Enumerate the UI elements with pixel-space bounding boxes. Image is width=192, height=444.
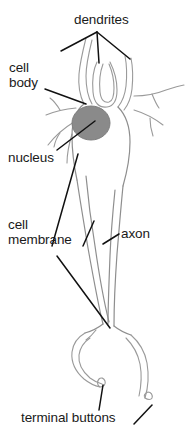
label-cell-body-line1: cell <box>9 60 29 75</box>
dendrite-upper-left-inner <box>86 40 92 104</box>
dendrite-left-branch-twig <box>50 98 60 110</box>
dendrite-branches <box>46 38 184 163</box>
dendrite-upper-right-outer <box>118 56 127 107</box>
axon-terminals <box>72 330 152 400</box>
dendrite-upper-left-outer <box>79 38 86 104</box>
label-terminal-buttons: terminal buttons <box>21 411 115 426</box>
label-cell-body-line2: body <box>9 75 38 90</box>
label-cell-body: cellbody <box>9 61 38 90</box>
dendrite-left-branch <box>46 108 76 115</box>
axon-right-wall <box>114 186 123 326</box>
leader-dendrites-middle <box>97 32 99 63</box>
axon-outline <box>77 176 131 335</box>
dendrite-middle-loop <box>93 62 117 107</box>
label-nucleus: nucleus <box>8 151 54 166</box>
leader-terminal-right <box>134 405 152 424</box>
axon-left-wall <box>77 180 103 324</box>
label-cell-membrane-line2: membrane <box>8 232 72 247</box>
dendrite-right-branch-twig <box>152 94 159 108</box>
neuron-diagram: dendrites cellbody nucleus cellmembrane … <box>0 0 192 444</box>
dendrite-right-lower <box>134 110 163 125</box>
soma-right-edge <box>118 107 130 186</box>
label-dendrites: dendrites <box>74 13 129 28</box>
dendrite-right-branch <box>134 85 184 96</box>
label-axon: axon <box>121 227 150 242</box>
dendrite-right-lower-twig <box>150 118 153 136</box>
terminal-branch-right-inner <box>126 338 141 396</box>
leader-dendrites-right <box>97 32 130 59</box>
leader-terminal-left <box>99 385 103 410</box>
dendrite-upper-right-inner <box>124 58 133 110</box>
terminal-branch-right-outer <box>131 335 148 398</box>
axon-branch-node-right <box>114 326 131 335</box>
dendrite-middle-loop-inner <box>100 64 114 102</box>
label-cell-membrane-line1: cell <box>8 217 28 232</box>
label-cell-membrane: cellmembrane <box>8 218 72 247</box>
